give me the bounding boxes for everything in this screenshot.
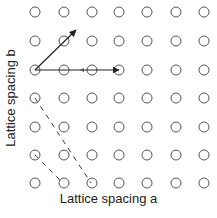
lattice-point: [171, 178, 181, 188]
lattice-point: [59, 150, 69, 160]
lattice-point: [142, 7, 152, 17]
lattice-point: [87, 150, 97, 160]
y-axis-label: Lattice spacing b: [3, 49, 18, 147]
lattice-point: [114, 93, 124, 103]
dashed-line: [35, 98, 91, 183]
lattice-point: [87, 178, 97, 188]
lattice-point: [30, 36, 40, 46]
lattice-point: [199, 93, 209, 103]
lattice-point: [142, 36, 152, 46]
lattice-point: [199, 36, 209, 46]
lattice-point: [199, 122, 209, 132]
lattice-point: [199, 65, 209, 75]
lattice-point: [171, 122, 181, 132]
lattice-point: [59, 7, 69, 17]
lattice-point: [30, 178, 40, 188]
x-axis-label: Lattice spacing a: [0, 191, 217, 206]
lattice-point: [171, 93, 181, 103]
lattice-point: [199, 7, 209, 17]
lattice-point: [59, 122, 69, 132]
lattice-point: [87, 7, 97, 17]
lattice-point: [171, 7, 181, 17]
lattice-point: [30, 122, 40, 132]
lattice-point: [142, 150, 152, 160]
lattice-point: [171, 36, 181, 46]
lattice-vectors: [35, 30, 119, 72]
lattice-diagram: [0, 0, 217, 218]
lattice-point: [171, 150, 181, 160]
lattice-point: [114, 178, 124, 188]
lattice-point: [199, 150, 209, 160]
dashed-line: [35, 155, 63, 183]
lattice-point: [142, 93, 152, 103]
lattice-point: [142, 122, 152, 132]
lattice-point: [87, 36, 97, 46]
lattice-points: [30, 7, 209, 188]
mid-arrowhead-icon: [80, 68, 84, 72]
lattice-point: [59, 93, 69, 103]
dashed-lines: [35, 98, 91, 183]
vector-diagonal-arrow: [35, 30, 76, 70]
lattice-point: [171, 65, 181, 75]
lattice-point: [114, 36, 124, 46]
lattice-point: [59, 178, 69, 188]
lattice-point: [30, 7, 40, 17]
lattice-point: [142, 65, 152, 75]
lattice-point: [114, 122, 124, 132]
lattice-point: [114, 150, 124, 160]
lattice-point: [114, 7, 124, 17]
lattice-point: [142, 178, 152, 188]
lattice-point: [87, 93, 97, 103]
lattice-point: [87, 122, 97, 132]
lattice-point: [199, 178, 209, 188]
